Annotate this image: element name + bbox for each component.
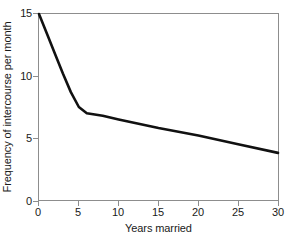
x-tick-label: 30	[263, 206, 290, 219]
y-axis-label: Frequency of intercourse per month	[1, 22, 13, 193]
x-tick-label: 10	[103, 206, 133, 219]
x-axis-label: Years married	[38, 222, 279, 234]
x-tick-label: 0	[23, 206, 53, 219]
data-line-svg	[39, 14, 278, 200]
data-series-line	[39, 14, 278, 153]
x-tick-label: 25	[223, 206, 253, 219]
x-tick-label: 20	[183, 206, 213, 219]
y-tick-label: 5	[10, 133, 32, 144]
x-tick-label: 15	[143, 206, 173, 219]
x-tick-label: 5	[63, 206, 93, 219]
y-axis-label-container: Frequency of intercourse per month	[0, 13, 14, 201]
plot-area	[38, 13, 279, 201]
chart-figure: Frequency of intercourse per month 15 10…	[0, 0, 290, 243]
y-tick-label: 10	[10, 71, 32, 82]
y-tick-label: 15	[10, 8, 32, 19]
